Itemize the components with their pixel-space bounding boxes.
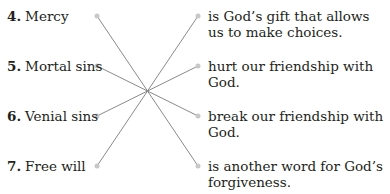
- right-dot-2[interactable]: [196, 64, 201, 69]
- right-dot-4[interactable]: [196, 164, 201, 169]
- left-dot-7[interactable]: [95, 164, 100, 169]
- term-label: Mercy: [25, 8, 68, 24]
- right-dot-3[interactable]: [196, 114, 201, 119]
- left-dot-4[interactable]: [95, 14, 100, 19]
- term-label: Free will: [25, 158, 86, 174]
- right-dot-1[interactable]: [196, 14, 201, 19]
- term-number: 7.: [7, 158, 21, 174]
- term-number: 6.: [7, 108, 21, 124]
- term-number: 5.: [7, 58, 21, 74]
- term-number: 4.: [7, 8, 21, 24]
- definition-mercy: is another word for God’s forgiveness.: [208, 158, 388, 190]
- term-label: Venial sins: [25, 108, 98, 124]
- definition-venial-sins: hurt our friendship with God.: [208, 58, 388, 90]
- term-label: Mortal sins: [25, 58, 102, 74]
- term-mercy: 4.Mercy: [7, 8, 69, 24]
- term-free-will: 7.Free will: [7, 158, 86, 174]
- definition-mortal-sins: break our friendship with God.: [208, 108, 388, 140]
- term-venial-sins: 6.Venial sins: [7, 108, 98, 124]
- term-mortal-sins: 5.Mortal sins: [7, 58, 102, 74]
- definition-free-will: is God’s gift that allows us to make cho…: [208, 8, 388, 40]
